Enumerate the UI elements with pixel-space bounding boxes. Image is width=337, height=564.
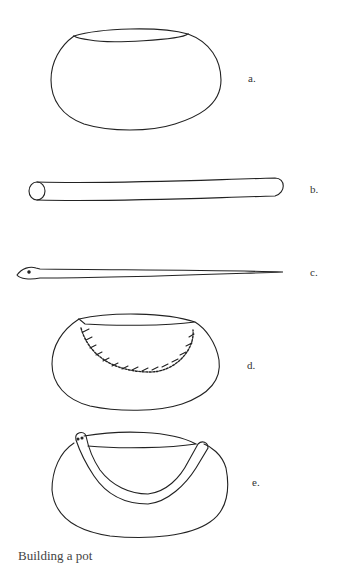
coil-b-drawing: [29, 178, 283, 201]
snake-c-drawing: [17, 267, 283, 279]
pot-a-drawing: [51, 29, 221, 130]
figure-caption: Building a pot: [18, 548, 92, 564]
panel-label-b: b.: [310, 183, 318, 195]
pot-e-drawing: [52, 432, 228, 537]
panel-label-c: c.: [310, 266, 318, 278]
panel-label-e: e.: [252, 476, 260, 488]
panel-label-d: d.: [247, 359, 255, 371]
panel-label-a: a.: [248, 72, 256, 84]
pot-d-drawing: [52, 314, 219, 410]
